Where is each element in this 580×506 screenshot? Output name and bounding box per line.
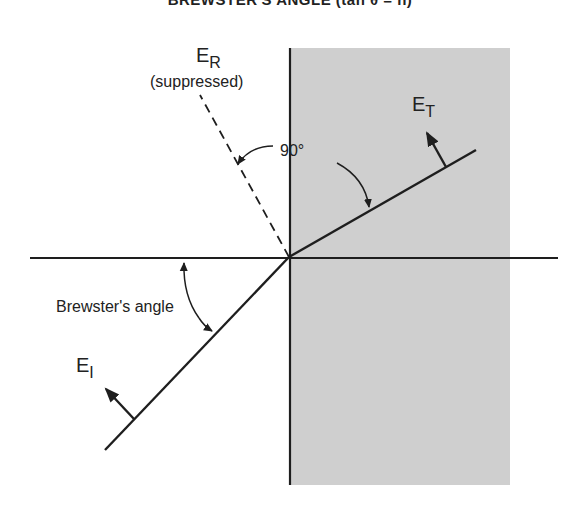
brewster-label: Brewster's angle: [56, 298, 174, 315]
reflected-label: ER: [196, 44, 221, 71]
incident-label: EI: [76, 354, 94, 381]
brewster-angle-arc: [184, 263, 199, 318]
incident-field-arrow: [106, 389, 134, 419]
right-angle-arc: [238, 146, 273, 164]
incident-ray: [105, 257, 289, 450]
brewster-diagram: ER (suppressed) 90° ET Brewster's angle …: [0, 0, 580, 506]
reflected-note: (suppressed): [150, 73, 243, 90]
reflected-ray-dashed: [200, 95, 289, 257]
brewster-angle-arc-2: [199, 318, 212, 331]
medium-region: [290, 48, 510, 485]
right-angle-label: 90°: [280, 142, 304, 159]
